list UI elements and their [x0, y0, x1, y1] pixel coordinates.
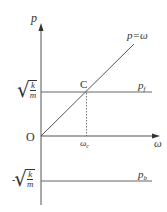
denominator: m — [27, 180, 34, 189]
y-axis-arrow-icon — [39, 23, 44, 31]
denominator: m — [30, 91, 37, 100]
p-equals-omega-line — [41, 44, 134, 136]
pb-label-sub: b — [144, 174, 148, 182]
sqrt-k-over-m-upper: √ k m — [17, 80, 37, 100]
radical-icon: √ — [14, 169, 27, 190]
omega-c-label-sub: c — [86, 143, 89, 149]
neg-sqrt-k-over-m-lower: - √ k m — [12, 169, 35, 189]
p-equals-omega-label: p=ω — [127, 30, 148, 41]
origin-label: O — [26, 131, 35, 143]
x-axis-label: ω — [154, 138, 162, 149]
fraction: k m — [26, 169, 35, 189]
radical-icon: √ — [17, 80, 30, 101]
omega-c-label: ωc — [80, 139, 89, 149]
pb-label: pb — [138, 169, 147, 182]
pf-label-sub: f — [144, 85, 146, 93]
fraction: k m — [29, 80, 38, 100]
y-axis-label: p — [31, 12, 37, 24]
pf-label: pf — [138, 80, 145, 93]
point-c-label: C — [80, 79, 87, 90]
